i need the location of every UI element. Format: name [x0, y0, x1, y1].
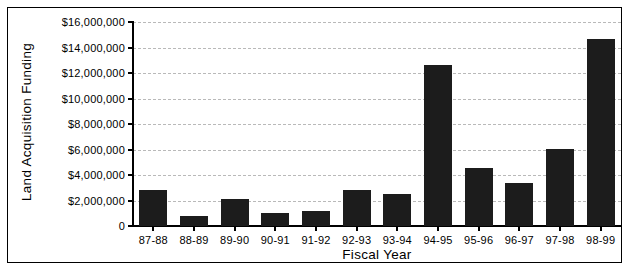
x-axis-tick-label: 87-88 — [139, 234, 168, 246]
y-axis-tick — [128, 72, 134, 74]
y-axis-tick — [128, 47, 134, 49]
gridline — [133, 124, 621, 126]
y-axis-tick-label: 0 — [119, 220, 125, 232]
gridline — [133, 48, 621, 50]
y-axis-tick — [128, 21, 134, 23]
bar — [139, 190, 167, 226]
y-axis-tick — [128, 225, 134, 227]
y-axis-tick-label: $16,000,000 — [62, 16, 125, 28]
x-axis-tick-label: 98-99 — [586, 234, 615, 246]
bar — [343, 190, 371, 226]
x-axis-tick-label: 94-95 — [423, 234, 452, 246]
bar — [424, 65, 452, 226]
x-axis-tick — [274, 226, 276, 231]
bar — [302, 211, 330, 226]
y-axis-tick-label: $14,000,000 — [62, 42, 125, 54]
gridline — [133, 22, 621, 24]
bar — [383, 194, 411, 227]
x-axis-tick-label: 93-94 — [383, 234, 412, 246]
x-axis-tick-label: 90-91 — [261, 234, 290, 246]
y-axis-tick — [128, 123, 134, 125]
bar — [261, 213, 289, 226]
x-axis-title: Fiscal Year — [133, 247, 621, 262]
x-axis-tick-label: 91-92 — [301, 234, 330, 246]
x-axis-tick — [437, 226, 439, 231]
x-axis-tick — [315, 226, 317, 231]
x-axis-tick — [478, 226, 480, 231]
gridline — [133, 73, 621, 75]
y-axis-tick-label: $8,000,000 — [68, 118, 125, 130]
y-axis-tick — [128, 174, 134, 176]
x-axis-tick-label: 88-89 — [179, 234, 208, 246]
bar — [180, 216, 208, 226]
x-axis-tick — [518, 226, 520, 231]
x-axis-tick — [234, 226, 236, 231]
x-axis-tick-label: 89-90 — [220, 234, 249, 246]
bar — [465, 168, 493, 226]
x-axis-tick-label: 97-98 — [545, 234, 574, 246]
x-axis-tick — [559, 226, 561, 231]
y-axis-tick — [128, 200, 134, 202]
plot-area: 0$2,000,000$4,000,000$6,000,000$8,000,00… — [133, 22, 621, 226]
bar — [505, 183, 533, 226]
x-axis-tick-label: 96-97 — [505, 234, 534, 246]
y-axis-tick-label: $2,000,000 — [68, 195, 125, 207]
x-axis-tick-label: 95-96 — [464, 234, 493, 246]
bar — [546, 149, 574, 226]
bar — [221, 199, 249, 226]
chart-frame: Land Acquisition Funding 0$2,000,000$4,0… — [7, 7, 622, 263]
gridline — [133, 99, 621, 101]
chart-figure: Land Acquisition Funding 0$2,000,000$4,0… — [0, 0, 639, 269]
x-axis-tick — [396, 226, 398, 231]
x-axis-tick-label: 92-93 — [342, 234, 371, 246]
bar — [587, 39, 615, 226]
y-axis-tick-label: $12,000,000 — [62, 67, 125, 79]
y-axis-tick — [128, 149, 134, 151]
y-axis-tick-label: $6,000,000 — [68, 144, 125, 156]
y-axis-title: Land Acquisition Funding — [17, 22, 37, 222]
x-axis-tick — [152, 226, 154, 231]
y-axis-tick-label: $4,000,000 — [68, 169, 125, 181]
y-axis-tick — [128, 98, 134, 100]
x-axis-tick — [356, 226, 358, 231]
x-axis-tick — [600, 226, 602, 231]
x-axis-tick — [193, 226, 195, 231]
y-axis-tick-label: $10,000,000 — [62, 93, 125, 105]
